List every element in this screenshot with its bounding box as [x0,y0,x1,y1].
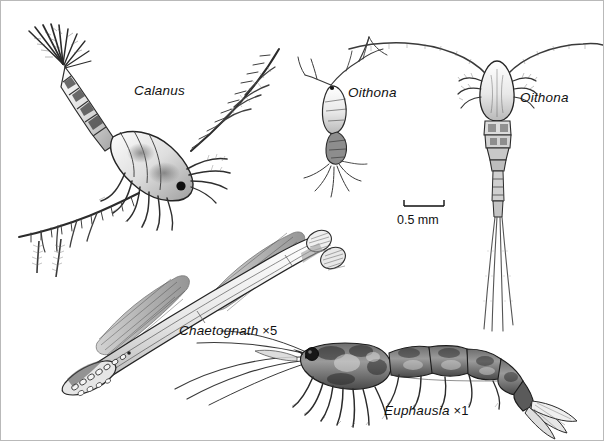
euphausia-krill [175,331,577,439]
oithona-dorsal-antennae-setae [371,43,585,64]
krill-tail-fan [525,401,577,439]
label-euphausia-magnification: ×1 [450,403,469,418]
calanus-copepod [19,24,279,277]
calanus-antenna-left [19,193,139,237]
label-calanus-text: Calanus [134,83,185,98]
oithona-dorsal-antenna-right [507,44,603,75]
oithona-lateral [298,37,387,197]
drawings-layer [1,1,604,441]
calanus-mouthpart-setae [207,154,225,172]
label-oithona-dorsal: Oithona [520,90,569,105]
label-oithona-lateral-text: Oithona [348,85,397,100]
scale-bar-caption: 0.5 mm [397,213,439,227]
oithona-dorsal-caudal-setae [484,217,513,331]
calanus-eye [176,181,185,190]
oithona-dorsal-thorax-seg2 [485,135,511,148]
oithona-dorsal-thorax-seg4 [490,160,506,171]
oithona-lateral-urosome [326,132,347,164]
oithona-dorsal-urosome [492,171,504,201]
calanus-gut-shading [127,143,155,163]
oithona-lateral-eye [330,86,334,90]
scale-bar [404,200,444,206]
oithona-dorsal-antenna-left [349,43,487,75]
calanus-oilsac-shading [148,162,180,184]
calanus-leg-setae [99,197,159,231]
chaetognath-eye [127,351,131,355]
calanus-mouthparts [187,158,230,203]
label-chaetognath-text: Chaetognath [179,323,259,338]
label-oithona-lateral: Oithona [348,85,397,100]
calanus-antenna-right [191,49,279,151]
label-calanus: Calanus [134,83,185,98]
label-chaetognath: Chaetognath ×5 [179,323,278,338]
label-oithona-dorsal-text: Oithona [520,90,569,105]
oithona-dorsal-thorax-seg3 [487,148,509,160]
oithona-dorsal-anal-somite [493,201,503,217]
label-euphausia-text: Euphausia [384,403,450,418]
krill-eye [305,348,319,361]
calanus-antenna-left-setae [31,197,134,252]
krill-antennal-flagella [175,331,304,405]
calanus-antenna-right-setae [192,55,275,148]
zooplankton-illustration-plate: Calanus Oithona Oithona Chaetognath ×5 E… [0,0,604,441]
krill-antennal-scale [255,350,297,361]
calanus-caudal-setae [29,24,91,68]
label-euphausia: Euphausia ×1 [384,403,469,418]
oithona-lateral-prosome [322,86,346,134]
oithona-lateral-caudal-setae [304,161,367,197]
label-chaetognath-magnification: ×5 [259,323,278,338]
calanus-antenna-left-plumes [32,239,65,277]
